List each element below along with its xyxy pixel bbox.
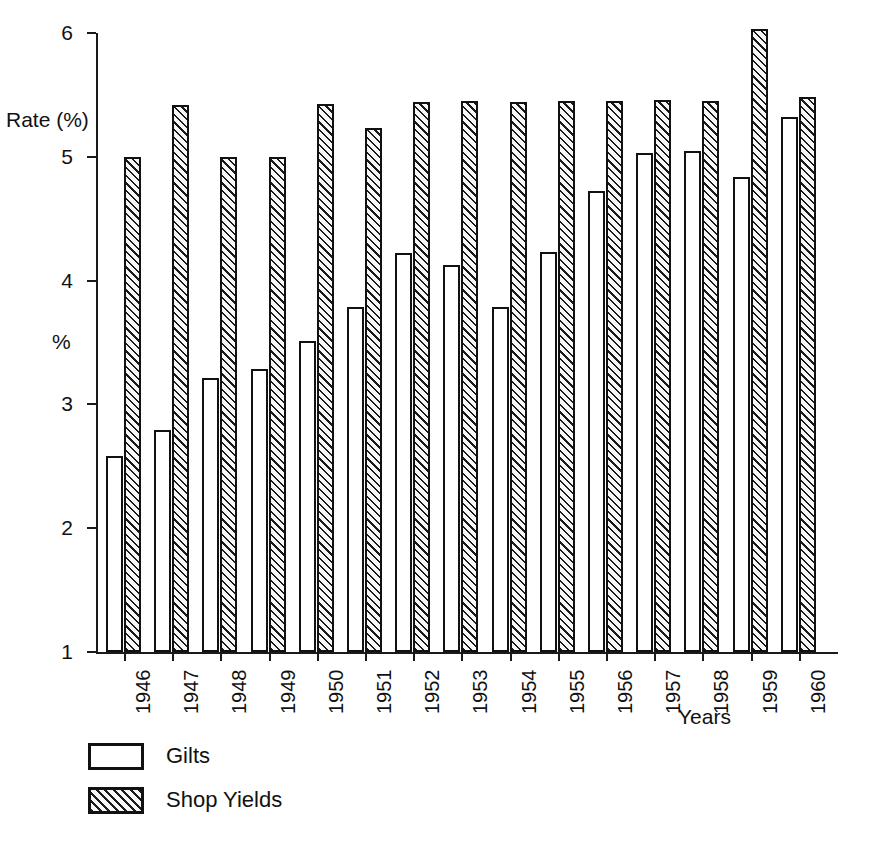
legend-item-shop-yields: Shop Yields bbox=[88, 778, 282, 822]
x-tick-label-1947: 1947 bbox=[181, 670, 201, 715]
x-tick-label-1960: 1960 bbox=[808, 670, 828, 715]
bar-shop-yields-1956 bbox=[606, 101, 623, 652]
bar-chart: 123456 Rate (%) % Years 1946194719481949… bbox=[0, 0, 869, 866]
x-tick-mark bbox=[606, 652, 608, 661]
bar-gilts-1960 bbox=[781, 117, 798, 652]
bar-shop-yields-1949 bbox=[269, 157, 286, 652]
y-axis-title: Rate (%) bbox=[6, 108, 89, 132]
y-tick: 4 bbox=[0, 270, 87, 291]
x-tick-label-1953: 1953 bbox=[470, 670, 490, 715]
bar-gilts-1952 bbox=[395, 253, 412, 652]
x-tick-label-1959: 1959 bbox=[760, 670, 780, 715]
y-tick-label: 1 bbox=[43, 641, 73, 662]
y-tick-label: 4 bbox=[43, 270, 73, 291]
bar-gilts-1946 bbox=[106, 456, 123, 652]
x-axis-line bbox=[96, 652, 838, 654]
x-tick-mark bbox=[510, 652, 512, 661]
x-tick-label-1958: 1958 bbox=[711, 670, 731, 715]
y-tick-mark bbox=[87, 403, 96, 405]
bar-gilts-1958 bbox=[684, 151, 701, 652]
y-tick: 3 bbox=[0, 393, 87, 414]
legend: Gilts Shop Yields bbox=[88, 734, 282, 822]
x-tick-mark bbox=[413, 652, 415, 661]
y-tick-label: 2 bbox=[43, 517, 73, 538]
y-tick: 5 bbox=[0, 146, 87, 167]
bar-shop-yields-1953 bbox=[461, 101, 478, 652]
x-tick-label-1949: 1949 bbox=[278, 670, 298, 715]
x-tick-mark bbox=[558, 652, 560, 661]
bar-shop-yields-1946 bbox=[124, 157, 141, 652]
x-tick-label-1951: 1951 bbox=[374, 670, 394, 715]
y-tick-mark bbox=[87, 527, 96, 529]
bar-shop-yields-1950 bbox=[317, 104, 334, 652]
bar-shop-yields-1957 bbox=[654, 100, 671, 652]
x-tick-label-1954: 1954 bbox=[519, 670, 539, 715]
bar-shop-yields-1955 bbox=[558, 101, 575, 652]
bar-gilts-1953 bbox=[443, 265, 460, 652]
x-tick-mark bbox=[269, 652, 271, 661]
x-tick-mark bbox=[124, 652, 126, 661]
bar-gilts-1957 bbox=[636, 153, 653, 652]
x-tick-mark bbox=[317, 652, 319, 661]
x-tick-label-1948: 1948 bbox=[229, 670, 249, 715]
x-tick-mark bbox=[654, 652, 656, 661]
y-tick: 6 bbox=[0, 22, 87, 43]
bar-gilts-1954 bbox=[492, 307, 509, 652]
x-tick-mark bbox=[751, 652, 753, 661]
bar-gilts-1948 bbox=[202, 378, 219, 652]
bar-shop-yields-1958 bbox=[702, 101, 719, 652]
y-tick-label: 5 bbox=[43, 146, 73, 167]
x-tick-label-1946: 1946 bbox=[133, 670, 153, 715]
bar-gilts-1950 bbox=[299, 341, 316, 652]
bar-gilts-1959 bbox=[733, 177, 750, 652]
bar-shop-yields-1951 bbox=[365, 128, 382, 652]
y-axis-title-secondary: % bbox=[52, 330, 71, 354]
bar-shop-yields-1954 bbox=[510, 102, 527, 652]
y-tick-label: 6 bbox=[43, 22, 73, 43]
x-tick-mark bbox=[702, 652, 704, 661]
y-tick-mark bbox=[87, 651, 96, 653]
legend-item-gilts: Gilts bbox=[88, 734, 282, 778]
legend-label-shop-yields: Shop Yields bbox=[166, 789, 282, 811]
legend-label-gilts: Gilts bbox=[166, 745, 210, 767]
bar-gilts-1951 bbox=[347, 307, 364, 652]
x-tick-label-1956: 1956 bbox=[615, 670, 635, 715]
bar-shop-yields-1959 bbox=[751, 29, 768, 652]
bar-shop-yields-1948 bbox=[220, 157, 237, 652]
x-tick-mark bbox=[365, 652, 367, 661]
y-tick-mark bbox=[87, 156, 96, 158]
bar-shop-yields-1960 bbox=[799, 97, 816, 652]
x-tick-label-1957: 1957 bbox=[663, 670, 683, 715]
legend-swatch-shop-yields bbox=[88, 787, 144, 814]
x-tick-label-1955: 1955 bbox=[567, 670, 587, 715]
x-tick-mark bbox=[461, 652, 463, 661]
x-tick-mark bbox=[172, 652, 174, 661]
bar-gilts-1949 bbox=[251, 369, 268, 653]
bar-gilts-1955 bbox=[540, 252, 557, 652]
x-tick-mark bbox=[220, 652, 222, 661]
x-tick-mark bbox=[799, 652, 801, 661]
y-tick-mark bbox=[87, 280, 96, 282]
bar-shop-yields-1952 bbox=[413, 102, 430, 652]
plot-area bbox=[96, 33, 838, 652]
bar-gilts-1947 bbox=[154, 430, 171, 652]
y-tick-mark bbox=[87, 32, 96, 34]
bar-gilts-1956 bbox=[588, 191, 605, 652]
y-tick: 2 bbox=[0, 517, 87, 538]
legend-swatch-gilts bbox=[88, 743, 144, 770]
x-tick-label-1952: 1952 bbox=[422, 670, 442, 715]
x-tick-label-1950: 1950 bbox=[326, 670, 346, 715]
y-tick: 1 bbox=[0, 641, 87, 662]
y-tick-label: 3 bbox=[43, 393, 73, 414]
bar-shop-yields-1947 bbox=[172, 105, 189, 652]
